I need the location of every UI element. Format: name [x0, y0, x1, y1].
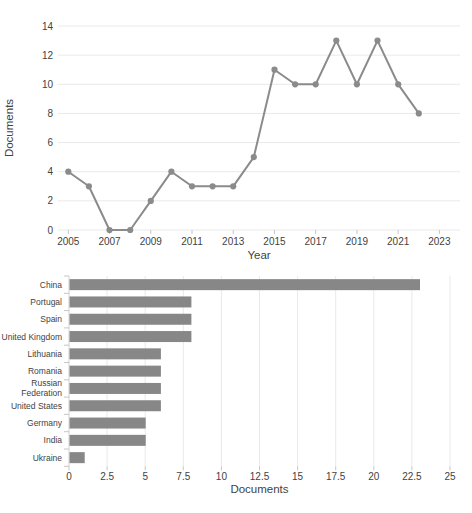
line-chart-y-axis-title: Documents: [3, 99, 15, 157]
x-tick-label: 2019: [346, 236, 369, 247]
bar: [70, 383, 161, 394]
bar-chart-x-axis-title: Documents: [230, 483, 288, 495]
data-point: [106, 227, 112, 233]
x-tick-label: 2023: [428, 236, 451, 247]
category-label: India: [44, 435, 63, 445]
x-tick-label: 20: [368, 471, 380, 482]
x-tick-label: 22.5: [402, 471, 422, 482]
data-point: [251, 154, 257, 160]
bar-chart-canvas: 02.557.51012.51517.52022.525ChinaPortuga…: [0, 266, 472, 513]
category-label: Ukraine: [33, 453, 63, 463]
x-tick-label: 7.5: [176, 471, 190, 482]
category-label: United Kingdom: [2, 332, 62, 342]
category-label: Lithuania: [27, 349, 62, 359]
y-tick-label: 2: [47, 195, 53, 206]
documents-by-year-line-chart: 0246810121420052007200920112013201520172…: [0, 0, 472, 270]
data-point: [313, 81, 319, 87]
bar: [70, 296, 192, 307]
category-label: Romania: [28, 366, 62, 376]
category-label: Portugal: [30, 297, 62, 307]
x-tick-label: 25: [444, 471, 456, 482]
bar: [70, 435, 146, 446]
data-point: [65, 169, 71, 175]
line-series-group: [65, 38, 422, 234]
x-tick-label: 2007: [98, 236, 121, 247]
y-tick-label: 4: [47, 166, 53, 177]
bar: [70, 400, 161, 411]
x-tick-label: 2011: [181, 236, 203, 247]
data-point: [354, 81, 360, 87]
category-label: Russian: [31, 378, 62, 388]
x-tick-label: 10: [216, 471, 228, 482]
y-tick-label: 6: [47, 137, 53, 148]
y-tick-label: 10: [42, 79, 54, 90]
x-tick-label: 5: [142, 471, 148, 482]
x-tick-label: 2005: [57, 236, 80, 247]
line-chart-x-axis-title: Year: [247, 249, 270, 261]
data-point: [86, 183, 92, 189]
data-point: [292, 81, 298, 87]
data-point: [230, 183, 236, 189]
x-tick-label: 0: [66, 471, 72, 482]
bar: [70, 331, 192, 342]
data-point: [374, 38, 380, 44]
y-tick-label: 14: [42, 21, 54, 32]
x-tick-label: 2015: [263, 236, 286, 247]
x-tick-label: 17.5: [326, 471, 346, 482]
data-point: [189, 183, 195, 189]
bar: [70, 452, 85, 463]
data-point: [416, 110, 422, 116]
category-label: China: [40, 280, 62, 290]
bar: [70, 314, 192, 325]
x-tick-label: 2021: [387, 236, 410, 247]
bar: [70, 418, 146, 429]
x-tick-label: 2017: [305, 236, 328, 247]
bar: [70, 279, 421, 290]
bar: [70, 348, 161, 359]
category-label: Federation: [21, 388, 62, 398]
category-label: United States: [11, 401, 62, 411]
x-tick-label: 12.5: [250, 471, 270, 482]
data-point: [168, 169, 174, 175]
y-tick-label: 12: [42, 50, 54, 61]
data-point: [127, 227, 133, 233]
data-point: [210, 183, 216, 189]
x-tick-label: 2009: [140, 236, 163, 247]
line-chart-gridlines: [58, 26, 460, 230]
x-tick-label: 2013: [222, 236, 245, 247]
data-point: [148, 198, 154, 204]
scientometric-report-page: 0246810121420052007200920112013201520172…: [0, 0, 472, 513]
category-label: Spain: [40, 314, 62, 324]
bar: [70, 366, 161, 377]
x-tick-label: 15: [292, 471, 304, 482]
y-tick-label: 0: [47, 225, 53, 236]
bar-series-group: [70, 279, 421, 463]
documents-by-country-bar-chart: 02.557.51012.51517.52022.525ChinaPortuga…: [0, 266, 472, 513]
data-point: [395, 81, 401, 87]
data-point: [333, 38, 339, 44]
data-point: [271, 67, 277, 73]
x-tick-label: 2.5: [100, 471, 114, 482]
line-series: [68, 41, 419, 230]
line-chart-canvas: 0246810121420052007200920112013201520172…: [0, 0, 472, 266]
category-label: Germany: [27, 418, 63, 428]
line-chart-axes: 0246810121420052007200920112013201520172…: [42, 21, 451, 247]
y-tick-label: 8: [47, 108, 53, 119]
